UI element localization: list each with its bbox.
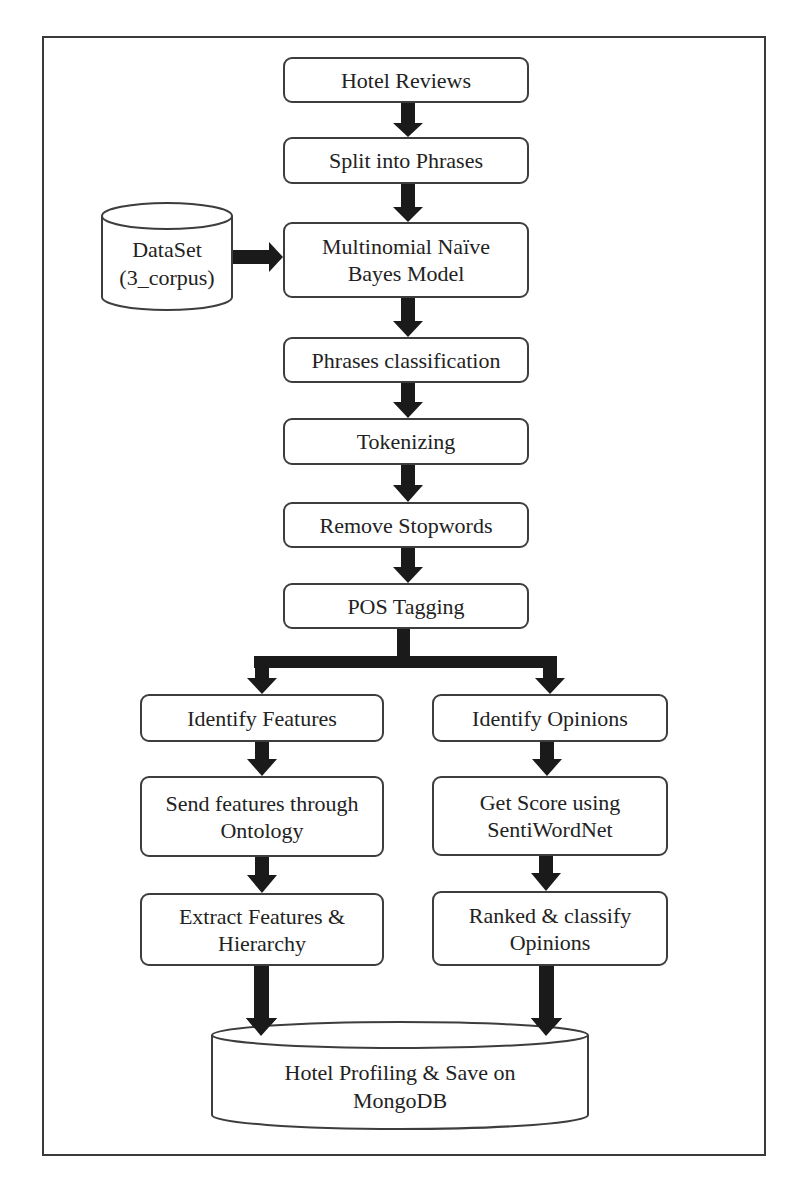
- node-label: Phrases classification: [312, 347, 501, 374]
- node-identify-opinions: Identify Opinions: [432, 694, 668, 742]
- node-hotel-reviews: Hotel Reviews: [283, 57, 529, 103]
- node-label-line1: Ranked & classify: [469, 902, 632, 929]
- node-label-line2: SentiWordNet: [487, 816, 612, 843]
- node-label-line1: Multinomial Naïve: [322, 233, 490, 260]
- node-label-line2: Ontology: [220, 817, 303, 844]
- node-get-score-sentiwordnet: Get Score using SentiWordNet: [432, 776, 668, 856]
- node-split-into-phrases: Split into Phrases: [283, 137, 529, 184]
- node-remove-stopwords: Remove Stopwords: [283, 502, 529, 548]
- node-send-features-ontology: Send features through Ontology: [140, 776, 384, 857]
- node-extract-features-hierarchy: Extract Features & Hierarchy: [140, 893, 384, 966]
- node-pos-tagging: POS Tagging: [283, 583, 529, 629]
- node-label: Split into Phrases: [329, 147, 483, 174]
- node-label-line2: Opinions: [510, 929, 591, 956]
- node-label-line1: Extract Features &: [179, 903, 345, 930]
- node-multinomial-naive-bayes: Multinomial Naïve Bayes Model: [283, 222, 529, 298]
- node-label: Hotel Reviews: [341, 67, 471, 94]
- node-label-line2: MongoDB: [353, 1087, 447, 1115]
- node-ranked-classify-opinions: Ranked & classify Opinions: [432, 891, 668, 966]
- node-label-line2: Hierarchy: [218, 930, 306, 957]
- node-label: POS Tagging: [347, 593, 464, 620]
- node-label: Identify Features: [187, 705, 337, 732]
- node-identify-features: Identify Features: [140, 694, 384, 742]
- node-label-line2: Bayes Model: [348, 260, 465, 287]
- node-tokenizing: Tokenizing: [283, 418, 529, 465]
- node-hotel-profiling-mongodb: Hotel Profiling & Save on MongoDB: [212, 1052, 588, 1122]
- node-label-line2: (3_corpus): [119, 264, 214, 292]
- node-phrases-classification: Phrases classification: [283, 337, 529, 383]
- node-label-line1: Get Score using: [480, 789, 621, 816]
- node-label-line1: Send features through: [165, 790, 358, 817]
- node-dataset: DataSet (3_corpus): [102, 228, 232, 300]
- node-label-line1: DataSet: [132, 236, 202, 264]
- node-label: Identify Opinions: [472, 705, 628, 732]
- node-label-line1: Hotel Profiling & Save on: [285, 1059, 516, 1087]
- node-label: Tokenizing: [357, 428, 456, 455]
- node-label: Remove Stopwords: [320, 512, 493, 539]
